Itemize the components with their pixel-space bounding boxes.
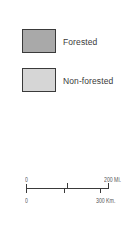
legend-label-non-forested: Non-forested — [63, 76, 113, 86]
scale-tick-200mi — [108, 183, 109, 189]
scale-line — [26, 188, 109, 189]
scale-tick-100km — [64, 188, 65, 193]
scale-tick-zero — [26, 184, 27, 193]
scale-miles-end: 200 Mi. — [104, 176, 121, 183]
scale-km-end: 300 Km. — [96, 197, 115, 204]
scale-km-start: 0 — [25, 197, 28, 204]
scale-tick-300km — [100, 188, 101, 193]
scale-miles-start: 0 — [25, 176, 28, 183]
scale-tick-100mi — [67, 183, 68, 188]
legend-label-forested: Forested — [63, 37, 97, 47]
legend-swatch-non-forested — [22, 68, 56, 92]
legend-swatch-forested — [22, 29, 56, 53]
